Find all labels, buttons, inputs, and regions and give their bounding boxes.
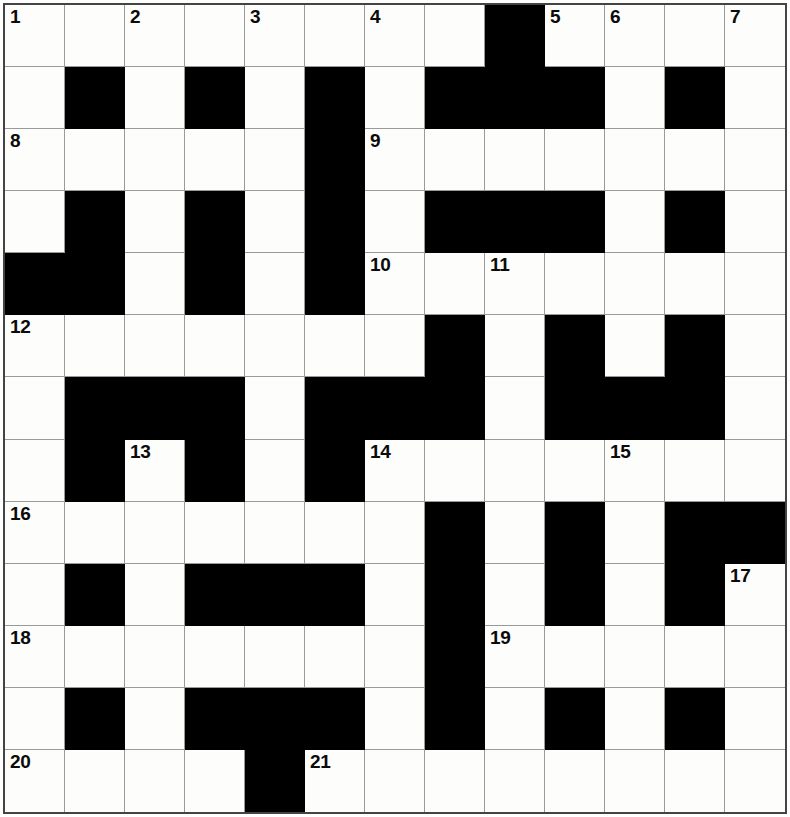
crossword-cell[interactable] bbox=[485, 315, 545, 377]
crossword-cell[interactable] bbox=[365, 315, 425, 377]
crossword-cell[interactable] bbox=[305, 315, 365, 377]
crossword-cell[interactable] bbox=[245, 315, 305, 377]
crossword-cell[interactable] bbox=[65, 129, 125, 191]
crossword-cell[interactable] bbox=[425, 129, 485, 191]
crossword-cell[interactable] bbox=[605, 315, 665, 377]
crossword-cell[interactable] bbox=[725, 191, 785, 253]
crossword-cell[interactable]: 4 bbox=[365, 5, 425, 67]
crossword-cell[interactable] bbox=[65, 5, 125, 67]
crossword-cell[interactable] bbox=[65, 315, 125, 377]
crossword-cell[interactable] bbox=[65, 626, 125, 688]
crossword-cell[interactable] bbox=[365, 750, 425, 812]
crossword-cell[interactable] bbox=[425, 5, 485, 67]
crossword-cell[interactable] bbox=[665, 626, 725, 688]
crossword-cell[interactable] bbox=[605, 626, 665, 688]
crossword-cell[interactable] bbox=[725, 688, 785, 750]
crossword-cell[interactable] bbox=[605, 564, 665, 626]
crossword-cell[interactable] bbox=[545, 750, 605, 812]
crossword-cell[interactable] bbox=[365, 191, 425, 253]
crossword-cell[interactable] bbox=[605, 67, 665, 129]
crossword-cell[interactable] bbox=[665, 253, 725, 315]
crossword-cell[interactable] bbox=[425, 440, 485, 502]
crossword-cell[interactable] bbox=[245, 440, 305, 502]
crossword-cell[interactable] bbox=[725, 440, 785, 502]
crossword-cell[interactable]: 7 bbox=[725, 5, 785, 67]
crossword-cell[interactable]: 8 bbox=[5, 129, 65, 191]
crossword-cell[interactable] bbox=[425, 253, 485, 315]
crossword-cell[interactable] bbox=[245, 626, 305, 688]
crossword-cell[interactable] bbox=[125, 191, 185, 253]
crossword-cell[interactable]: 17 bbox=[725, 564, 785, 626]
crossword-cell[interactable] bbox=[665, 750, 725, 812]
crossword-cell[interactable] bbox=[125, 67, 185, 129]
crossword-cell[interactable] bbox=[65, 750, 125, 812]
crossword-cell[interactable] bbox=[365, 502, 425, 564]
crossword-cell[interactable] bbox=[185, 502, 245, 564]
crossword-cell[interactable]: 16 bbox=[5, 502, 65, 564]
crossword-cell[interactable]: 15 bbox=[605, 440, 665, 502]
crossword-cell[interactable] bbox=[5, 67, 65, 129]
crossword-cell[interactable] bbox=[545, 440, 605, 502]
crossword-cell[interactable] bbox=[245, 377, 305, 439]
crossword-cell[interactable] bbox=[365, 688, 425, 750]
crossword-cell[interactable] bbox=[605, 502, 665, 564]
crossword-cell[interactable] bbox=[125, 564, 185, 626]
crossword-cell[interactable] bbox=[125, 502, 185, 564]
crossword-cell[interactable] bbox=[305, 502, 365, 564]
crossword-cell[interactable] bbox=[5, 440, 65, 502]
crossword-cell[interactable] bbox=[545, 129, 605, 191]
crossword-cell[interactable] bbox=[605, 191, 665, 253]
crossword-cell[interactable] bbox=[605, 129, 665, 191]
crossword-cell[interactable] bbox=[605, 750, 665, 812]
crossword-cell[interactable] bbox=[725, 750, 785, 812]
crossword-cell[interactable] bbox=[185, 315, 245, 377]
crossword-grid[interactable]: 123456789101112131415161718192021 bbox=[3, 3, 787, 814]
crossword-cell[interactable] bbox=[305, 5, 365, 67]
crossword-cell[interactable] bbox=[725, 67, 785, 129]
crossword-cell[interactable] bbox=[725, 253, 785, 315]
crossword-cell[interactable]: 9 bbox=[365, 129, 425, 191]
crossword-cell[interactable]: 14 bbox=[365, 440, 425, 502]
crossword-cell[interactable] bbox=[185, 5, 245, 67]
crossword-cell[interactable] bbox=[125, 129, 185, 191]
crossword-cell[interactable]: 10 bbox=[365, 253, 425, 315]
crossword-cell[interactable] bbox=[185, 750, 245, 812]
crossword-cell[interactable] bbox=[485, 129, 545, 191]
crossword-cell[interactable] bbox=[485, 750, 545, 812]
crossword-cell[interactable] bbox=[725, 129, 785, 191]
crossword-cell[interactable]: 1 bbox=[5, 5, 65, 67]
crossword-cell[interactable] bbox=[545, 253, 605, 315]
crossword-cell[interactable] bbox=[125, 750, 185, 812]
crossword-cell[interactable] bbox=[125, 626, 185, 688]
crossword-cell[interactable] bbox=[665, 129, 725, 191]
crossword-cell[interactable] bbox=[245, 67, 305, 129]
crossword-cell[interactable] bbox=[485, 502, 545, 564]
crossword-cell[interactable] bbox=[245, 129, 305, 191]
crossword-cell[interactable] bbox=[485, 688, 545, 750]
crossword-cell[interactable] bbox=[125, 315, 185, 377]
crossword-cell[interactable] bbox=[5, 688, 65, 750]
crossword-cell[interactable] bbox=[245, 502, 305, 564]
crossword-cell[interactable] bbox=[245, 253, 305, 315]
crossword-cell[interactable] bbox=[725, 626, 785, 688]
crossword-cell[interactable] bbox=[485, 564, 545, 626]
crossword-cell[interactable] bbox=[185, 129, 245, 191]
crossword-cell[interactable] bbox=[65, 502, 125, 564]
crossword-cell[interactable] bbox=[725, 315, 785, 377]
crossword-cell[interactable] bbox=[245, 191, 305, 253]
crossword-cell[interactable] bbox=[185, 626, 245, 688]
crossword-cell[interactable] bbox=[5, 564, 65, 626]
crossword-cell[interactable]: 12 bbox=[5, 315, 65, 377]
crossword-cell[interactable]: 5 bbox=[545, 5, 605, 67]
crossword-cell[interactable]: 3 bbox=[245, 5, 305, 67]
crossword-cell[interactable] bbox=[125, 253, 185, 315]
crossword-cell[interactable] bbox=[305, 626, 365, 688]
crossword-cell[interactable]: 20 bbox=[5, 750, 65, 812]
crossword-cell[interactable]: 6 bbox=[605, 5, 665, 67]
crossword-cell[interactable]: 2 bbox=[125, 5, 185, 67]
crossword-cell[interactable] bbox=[125, 688, 185, 750]
crossword-cell[interactable]: 11 bbox=[485, 253, 545, 315]
crossword-cell[interactable] bbox=[665, 5, 725, 67]
crossword-cell[interactable] bbox=[485, 377, 545, 439]
crossword-cell[interactable]: 21 bbox=[305, 750, 365, 812]
